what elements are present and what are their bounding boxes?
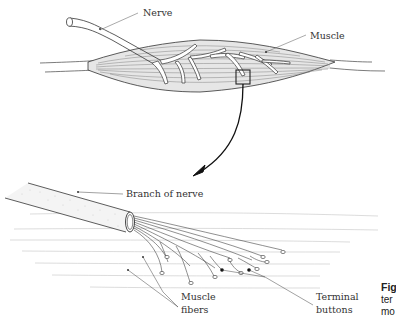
magnification-arrow — [193, 84, 243, 176]
neuromuscular-diagram: Nerve Muscle — [0, 0, 396, 321]
caption-line2: ter — [381, 294, 393, 305]
label-muscle-fibers-2: fibers — [181, 304, 209, 315]
label-nerve: Nerve — [143, 7, 173, 18]
label-muscle-fibers-1: Muscle — [181, 291, 216, 302]
label-muscle: Muscle — [310, 30, 345, 41]
label-terminal-buttons-1: Terminal — [316, 291, 359, 302]
caption-fig: Fig — [381, 281, 396, 293]
axon-terminals — [134, 216, 282, 282]
muscle-fibers — [10, 213, 378, 288]
nerve-branch — [5, 183, 135, 232]
caption-line3: mo — [381, 306, 395, 317]
label-branch-of-nerve: Branch of nerve — [126, 188, 204, 199]
label-terminal-buttons-2: buttons — [316, 304, 353, 315]
muscle-illustration — [40, 13, 385, 92]
